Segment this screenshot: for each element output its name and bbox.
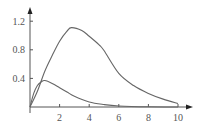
y-tick-label: 0.8 <box>13 44 26 55</box>
y-tick-label: 0.4 <box>13 73 26 84</box>
small-curve-line <box>30 81 178 107</box>
y-axis-arrow-icon <box>28 7 33 14</box>
large-curve-line <box>30 28 178 107</box>
x-tick-label: 2 <box>57 112 62 123</box>
x-tick-label: 4 <box>87 112 92 123</box>
x-tick-label: 10 <box>173 112 183 123</box>
x-tick-label: 8 <box>146 112 151 123</box>
series <box>30 28 178 107</box>
line-chart: 2468100.40.81.2 <box>0 0 201 128</box>
y-tick-label: 1.2 <box>13 16 26 27</box>
x-tick-label: 6 <box>116 112 121 123</box>
x-axis-arrow-icon <box>186 105 193 110</box>
